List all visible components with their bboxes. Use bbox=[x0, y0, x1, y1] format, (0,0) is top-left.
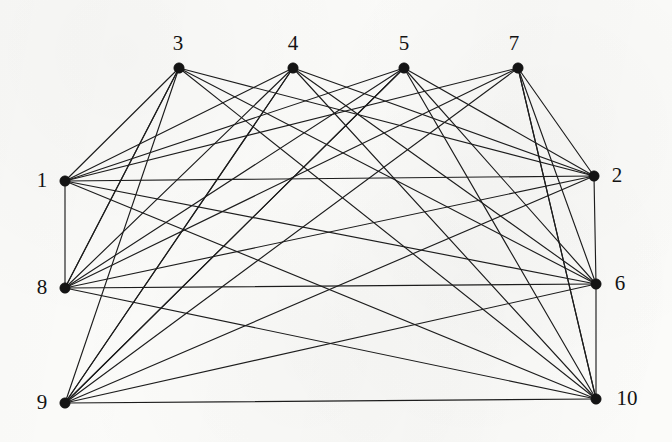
graph-vertex-7[interactable] bbox=[513, 63, 523, 73]
graph-edge bbox=[404, 68, 596, 399]
vertex-label-7: 7 bbox=[509, 33, 520, 54]
graph-edge bbox=[65, 176, 594, 403]
graph-vertex-6[interactable] bbox=[591, 279, 601, 289]
graph-edge bbox=[518, 68, 594, 176]
vertex-label-2: 2 bbox=[612, 165, 623, 186]
graph-edge bbox=[404, 68, 594, 176]
graph-edge bbox=[179, 68, 596, 399]
graph-vertex-10[interactable] bbox=[591, 394, 601, 404]
graph-vertex-3[interactable] bbox=[174, 63, 184, 73]
vertex-label-3: 3 bbox=[173, 33, 184, 54]
graph-edge bbox=[65, 68, 179, 181]
graph-vertex-2[interactable] bbox=[589, 171, 599, 181]
graph-edge bbox=[65, 68, 404, 403]
graph-edge bbox=[65, 399, 596, 403]
graph-vertex-4[interactable] bbox=[288, 63, 298, 73]
vertex-label-1: 1 bbox=[37, 170, 48, 191]
graph-edge bbox=[65, 68, 293, 403]
vertex-label-4: 4 bbox=[288, 33, 299, 54]
graph-edge bbox=[65, 68, 293, 181]
graph-edge bbox=[65, 181, 596, 399]
graph-edge bbox=[594, 176, 596, 284]
graph-edge bbox=[65, 68, 293, 288]
graph-edge bbox=[65, 176, 594, 181]
vertex-label-5: 5 bbox=[399, 33, 410, 54]
vertex-label-9: 9 bbox=[37, 392, 48, 413]
graph-edge bbox=[518, 68, 596, 399]
graph-edge bbox=[293, 68, 594, 176]
graph-vertex-8[interactable] bbox=[60, 283, 70, 293]
vertex-label-6: 6 bbox=[615, 273, 626, 294]
graph-edge bbox=[65, 68, 179, 403]
graph-edge bbox=[65, 68, 179, 288]
graph-vertex-9[interactable] bbox=[60, 398, 70, 408]
graph-canvas bbox=[0, 0, 672, 442]
vertex-label-10: 10 bbox=[617, 388, 638, 409]
graph-edge bbox=[65, 181, 596, 284]
vertex-label-8: 8 bbox=[37, 277, 48, 298]
graph-vertex-5[interactable] bbox=[399, 63, 409, 73]
graph-edge bbox=[65, 68, 518, 288]
edge-layer bbox=[65, 68, 596, 403]
graph-vertex-1[interactable] bbox=[60, 176, 70, 186]
graph-diagram: 12345768910 bbox=[0, 0, 672, 442]
